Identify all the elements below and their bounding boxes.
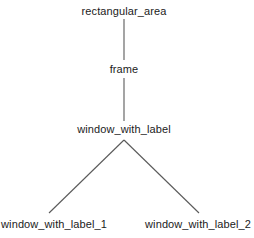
node-window-with-label: window_with_label [77,123,170,135]
node-rectangular-area: rectangular_area [82,5,167,17]
node-window-with-label-2: window_with_label_2 [145,218,251,230]
tree-diagram: rectangular_area frame window_with_label… [0,0,254,238]
edge-window-with-label-to-child-2 [124,140,199,213]
edge-layer [0,0,254,238]
node-frame: frame [110,63,139,75]
node-window-with-label-1: window_with_label_1 [1,218,107,230]
edge-window-with-label-to-child-1 [49,140,124,213]
